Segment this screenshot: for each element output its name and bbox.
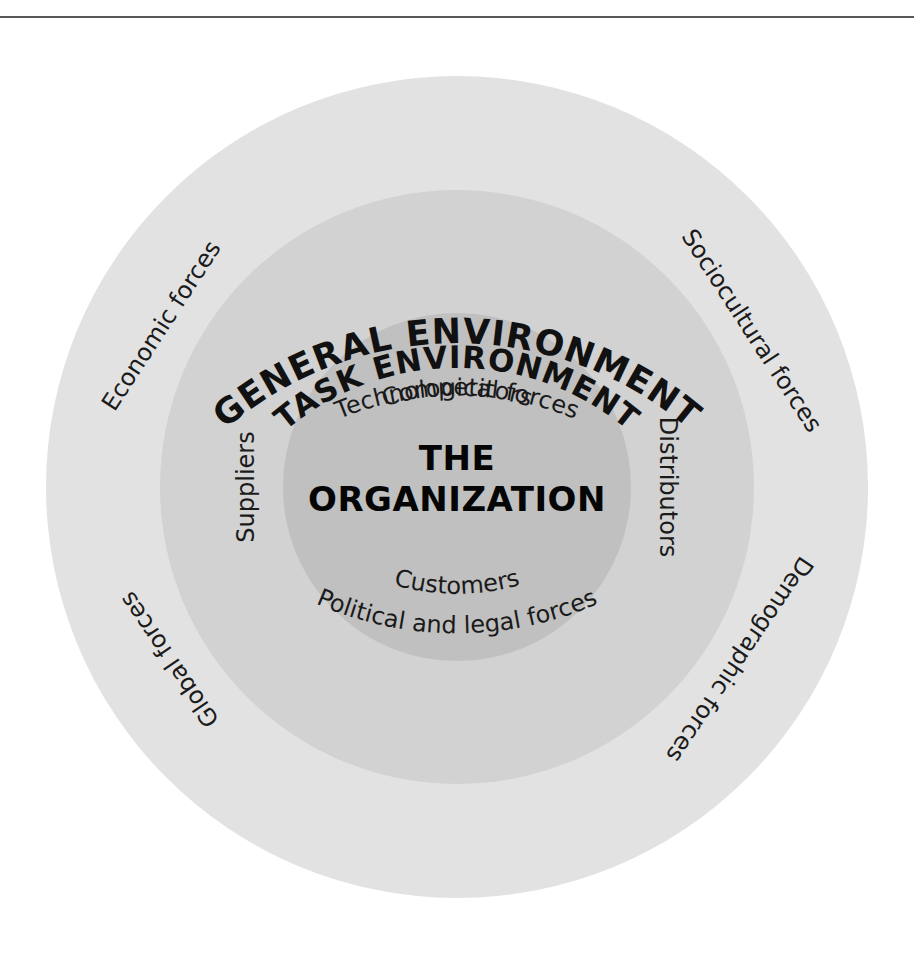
label-distributors: Distributors: [654, 417, 682, 558]
organization-title-line2: ORGANIZATION: [308, 479, 606, 519]
figure-canvas: GENERAL ENVIRONMENT Technological forces…: [0, 0, 914, 954]
organization-title-line1: THE: [419, 438, 495, 478]
label-suppliers: Suppliers: [232, 431, 260, 542]
organizational-environment-diagram: GENERAL ENVIRONMENT Technological forces…: [0, 0, 914, 954]
